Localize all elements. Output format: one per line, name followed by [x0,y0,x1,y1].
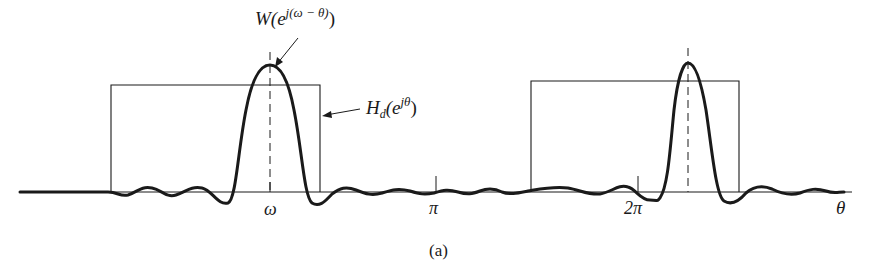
ideal-response-pulse-1 [111,85,320,192]
ideal-label-exponent: jθ [401,94,411,109]
window-label-exponent: j(ω − θ) [286,5,329,20]
ideal-response-label: Hd(ejθ) [366,97,417,119]
window-label: W(ej(ω − θ)) [255,8,335,30]
ideal-label-paren: (e [386,97,401,118]
tick-label-pi: π [429,198,438,219]
ideal-label-subscript: d [380,107,386,121]
ideal-response-pulse-2 [531,81,739,192]
convolution-diagram [0,0,888,275]
window-curve [20,63,844,205]
axis-label-theta: θ [836,197,845,219]
ideal-label-close: ) [411,97,417,118]
tick-label-2pi: 2π [624,198,642,219]
window-label-base: W(e [255,8,286,29]
ideal-label-base: H [366,97,380,118]
window-label-close: ) [329,8,335,29]
tick-label-omega: ω [264,199,277,220]
ideal-arrowhead-icon [322,111,332,118]
figure-caption: (a) [429,241,448,261]
